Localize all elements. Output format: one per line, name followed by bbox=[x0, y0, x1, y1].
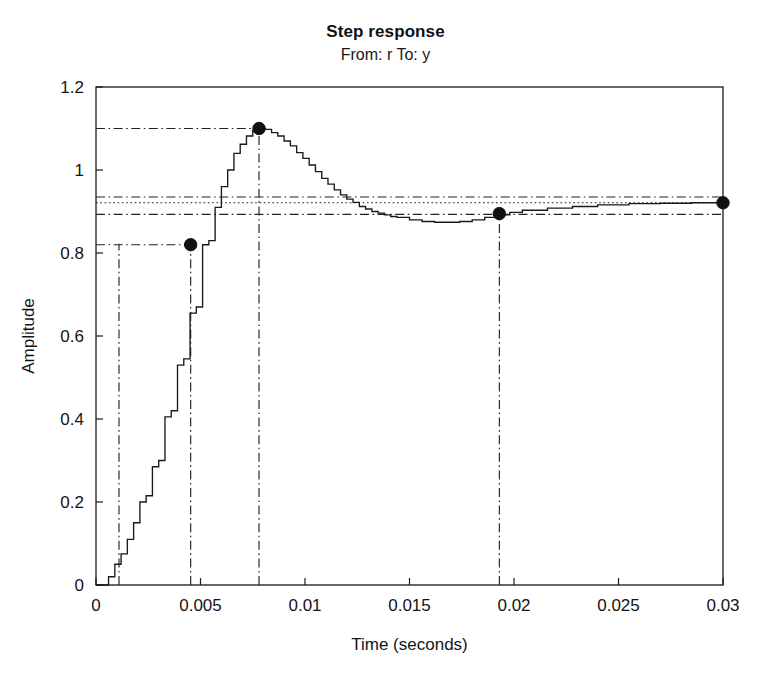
step-response-plot: 00.0050.010.0150.020.0250.0300.20.40.60.… bbox=[0, 0, 771, 677]
rise-time-marker[interactable] bbox=[184, 239, 196, 251]
x-axis-title: Time (seconds) bbox=[351, 635, 468, 654]
x-tick-label: 0.015 bbox=[388, 596, 431, 615]
final-value-marker[interactable] bbox=[717, 197, 729, 209]
x-tick-label: 0.005 bbox=[179, 596, 222, 615]
x-tick-label: 0.01 bbox=[288, 596, 321, 615]
figure-canvas: Step response From: r To: y 00.0050.010.… bbox=[0, 0, 771, 677]
y-tick-label: 1 bbox=[75, 161, 84, 180]
y-tick-label: 0.2 bbox=[60, 493, 84, 512]
x-tick-label: 0 bbox=[91, 596, 100, 615]
y-tick-label: 1.2 bbox=[60, 78, 84, 97]
x-tick-label: 0.02 bbox=[497, 596, 530, 615]
y-tick-label: 0.6 bbox=[60, 327, 84, 346]
y-tick-label: 0.8 bbox=[60, 244, 84, 263]
y-axis-title: Amplitude bbox=[19, 298, 38, 374]
settling-time-marker[interactable] bbox=[493, 207, 505, 219]
y-tick-label: 0.4 bbox=[60, 410, 84, 429]
peak-marker[interactable] bbox=[253, 122, 265, 134]
x-tick-label: 0.03 bbox=[706, 596, 739, 615]
x-tick-label: 0.025 bbox=[597, 596, 640, 615]
y-tick-label: 0 bbox=[75, 576, 84, 595]
